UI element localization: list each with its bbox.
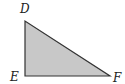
triangle-def: [25, 21, 110, 76]
triangle-diagram: D E F: [0, 0, 125, 84]
vertex-label-d: D: [19, 2, 30, 16]
vertex-label-e: E: [9, 70, 19, 84]
vertex-label-f: F: [112, 71, 122, 84]
